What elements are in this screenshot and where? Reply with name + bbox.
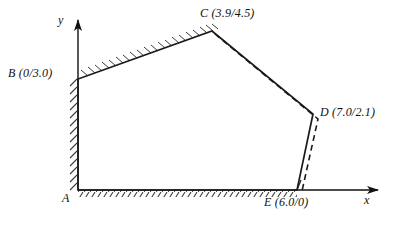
point-label-D: D (7.0/2.1) <box>320 106 375 118</box>
point-label-A: A <box>62 192 70 204</box>
y-axis-label: y <box>58 14 63 26</box>
x-axis-label: x <box>364 194 369 206</box>
point-label-E: E (6.0/0) <box>264 196 308 208</box>
geometry-figure: A B (0/3.0) C (3.9/4.5) D (7.0/2.1) E (6… <box>0 0 414 226</box>
hatch-edge-AB <box>70 79 77 190</box>
point-label-B: B (0/3.0) <box>8 67 52 79</box>
point-label-C: C (3.9/4.5) <box>200 7 255 19</box>
hatch-edge-BC <box>81 24 218 76</box>
polygon-outline <box>78 31 313 190</box>
